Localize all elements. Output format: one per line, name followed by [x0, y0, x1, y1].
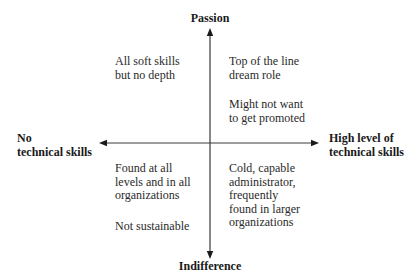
quadrant-bottom-left-text-2: Not sustainable: [115, 220, 189, 234]
quadrant-top-right-text-1: Top of the line dream role: [229, 55, 299, 82]
axis-label-line: High level of: [329, 132, 404, 146]
quadrant-text-line: levels and in all: [115, 176, 191, 190]
quadrant-text-line: but no depth: [115, 69, 180, 83]
quadrant-diagram: Passion Indifference No technical skills…: [0, 0, 414, 278]
quadrant-text-line: All soft skills: [115, 55, 180, 69]
quadrant-text-line: organizations: [229, 216, 300, 230]
quadrant-text-line: found in larger: [229, 203, 300, 217]
quadrant-text-line: frequently: [229, 189, 300, 203]
axis-label-high-technical-skills: High level of technical skills: [329, 132, 404, 159]
axis-label-line: technical skills: [17, 146, 92, 160]
axis-label-passion: Passion: [191, 12, 230, 26]
quadrant-top-right-text-2: Might not want to get promoted: [229, 98, 305, 125]
quadrant-text-line: administrator,: [229, 176, 300, 190]
axis-label-line: No: [17, 132, 92, 146]
quadrant-bottom-left-text-1: Found at all levels and in all organizat…: [115, 162, 191, 203]
quadrant-text-line: Cold, capable: [229, 162, 300, 176]
quadrant-text-line: dream role: [229, 69, 299, 83]
quadrant-text-line: Found at all: [115, 162, 191, 176]
quadrant-text-line: Top of the line: [229, 55, 299, 69]
quadrant-text-line: organizations: [115, 189, 191, 203]
quadrant-text-line: Might not want: [229, 98, 305, 112]
quadrant-top-left-text: All soft skills but no depth: [115, 55, 180, 82]
quadrant-text-line: to get promoted: [229, 112, 305, 126]
axis-label-line: technical skills: [329, 146, 404, 160]
quadrant-text-line: Not sustainable: [115, 220, 189, 234]
axis-label-indifference: Indifference: [179, 260, 241, 274]
quadrant-bottom-right-text: Cold, capable administrator, frequently …: [229, 162, 300, 230]
axis-label-no-technical-skills: No technical skills: [17, 132, 92, 159]
